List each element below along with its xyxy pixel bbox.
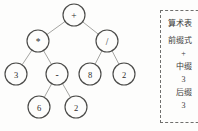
note-line: 前缀式 [168,34,198,47]
notes-panel: 算术表前缀式+中缀3后缀3 [160,10,198,123]
tree-node-6[interactable]: 6 [28,96,50,118]
tree-edge [43,51,51,65]
note-line: 后缀 [168,86,198,99]
tree-node-plus[interactable]: + [63,4,85,26]
tree-node-2[interactable]: 2 [113,63,135,85]
node-label: 3 [14,70,18,80]
note-line: + [168,47,198,60]
note-line: 3 [168,73,198,86]
tree-edge [62,84,70,98]
tree-node-2[interactable]: 2 [65,96,87,118]
tree-edge [95,51,102,64]
node-label: - [55,70,58,80]
note-line: 3 [168,99,198,112]
tree-node-3[interactable]: 3 [5,63,27,85]
tree-node-minus[interactable]: - [46,63,68,85]
tree-node-slash[interactable]: / [96,30,118,52]
node-label: 2 [74,103,78,113]
note-line: 中缀 [168,60,198,73]
tree-node-star[interactable]: * [27,30,49,52]
note-line: 算术表 [168,17,198,30]
expression-tree-screenshot: +*/3-8262 算术表前缀式+中缀3后缀3 [0,0,198,131]
node-label: 6 [37,103,41,113]
tree-edge [83,22,99,34]
notes-panel-content: 算术表前缀式+中缀3后缀3 [161,11,198,112]
node-label: * [36,37,41,47]
tree-edge [112,51,119,64]
node-label: 8 [88,70,92,80]
tree-node-8[interactable]: 8 [79,63,101,85]
node-label: / [106,37,109,47]
node-label: + [71,11,76,21]
tree-edge [22,50,32,65]
tree-edge [47,21,65,34]
tree-edge [44,84,51,98]
node-label: 2 [122,70,126,80]
